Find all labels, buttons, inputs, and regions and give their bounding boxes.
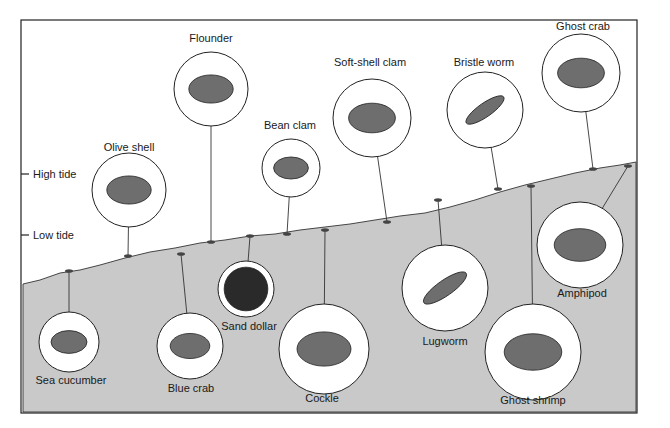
- organism-label: Sea cucumber: [36, 374, 107, 386]
- burrow-mark: [321, 228, 329, 232]
- ghost-crab-icon: [542, 34, 620, 112]
- organism-label: Sand dollar: [221, 320, 277, 332]
- organism-label: Bristle worm: [454, 56, 515, 68]
- connector-line: [324, 230, 325, 304]
- organism-label: Soft-shell clam: [334, 56, 406, 68]
- sand-dollar-icon: [218, 261, 274, 317]
- intertidal-diagram: High tide Low tide Olive shellFlounderBe…: [0, 0, 670, 428]
- burrow-mark: [177, 252, 185, 256]
- burrow-mark: [494, 187, 502, 191]
- burrow-mark: [527, 184, 535, 188]
- organism-label: Amphipod: [557, 287, 607, 299]
- organism-label: Olive shell: [104, 141, 155, 153]
- burrow-mark: [283, 232, 291, 236]
- burrow-mark: [589, 167, 597, 171]
- burrow-mark: [624, 164, 632, 168]
- bristle-worm-icon: [447, 72, 523, 148]
- tide-label-low: Low tide: [33, 229, 74, 241]
- burrow-mark: [246, 234, 254, 238]
- burrow-mark: [65, 269, 73, 273]
- soft-shell-clam-icon: [333, 79, 411, 157]
- organism-label: Bean clam: [264, 119, 316, 131]
- burrow-mark: [207, 240, 215, 244]
- blue-crab-icon: [157, 313, 223, 379]
- sea-cucumber-icon: [39, 312, 99, 372]
- lugworm-icon: [402, 245, 488, 331]
- olive-shell-icon: [92, 153, 166, 227]
- burrow-mark: [124, 254, 132, 258]
- organism-label: Lugworm: [422, 335, 467, 347]
- amphipod-icon: [537, 202, 623, 288]
- organism-label: Blue crab: [168, 382, 214, 394]
- ghost-shrimp-icon: [485, 304, 581, 400]
- organism-label: Ghost shrimp: [500, 394, 565, 406]
- burrow-mark: [383, 220, 391, 224]
- flounder-icon: [174, 52, 248, 126]
- tide-label-high: High tide: [33, 168, 76, 180]
- organism-label: Flounder: [189, 32, 232, 44]
- organism-label: Cockle: [305, 392, 339, 404]
- cockle-icon: [279, 304, 369, 394]
- organism-label: Ghost crab: [556, 20, 610, 32]
- bean-clam-icon: [262, 139, 320, 197]
- burrow-mark: [434, 198, 442, 202]
